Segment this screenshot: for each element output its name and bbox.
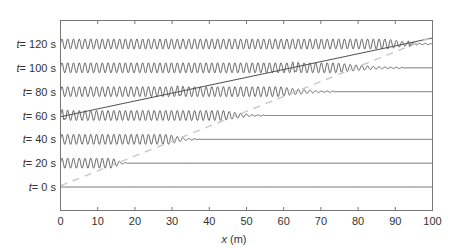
row-label: t= 20 s [23, 157, 57, 169]
wave-traces [61, 39, 433, 187]
x-tick-label: 90 [389, 215, 401, 227]
wave-trace [61, 86, 433, 97]
row-labels: t= 0 st= 20 st= 40 st= 60 st= 80 st= 100… [17, 38, 57, 193]
row-label: t= 100 s [17, 62, 57, 74]
x-tick-label: 10 [92, 215, 104, 227]
x-tick-label: 0 [57, 215, 63, 227]
wave-trace [61, 39, 433, 49]
row-label: t= 40 s [23, 133, 57, 145]
wave-trace [61, 62, 433, 73]
wave-propagation-chart: 0102030405060708090100 t= 0 st= 20 st= 4… [0, 0, 459, 248]
x-axis-ticks: 0102030405060708090100 [57, 21, 441, 227]
x-tick-label: 30 [166, 215, 178, 227]
row-label: t= 120 s [17, 38, 57, 50]
x-tick-label: 80 [352, 215, 364, 227]
x-tick-label: 60 [278, 215, 290, 227]
x-tick-label: 100 [423, 215, 441, 227]
wave-trace [61, 158, 433, 168]
solid-packet-trajectory-line [61, 38, 433, 117]
row-label: t= 60 s [23, 110, 57, 122]
x-tick-label: 50 [240, 215, 252, 227]
x-tick-label: 70 [315, 215, 327, 227]
x-tick-label: 20 [129, 215, 141, 227]
wave-trace [61, 134, 433, 144]
x-axis-title: x (m) [220, 233, 246, 245]
row-label: t= 0 s [29, 181, 57, 193]
row-label: t= 80 s [23, 86, 57, 98]
x-tick-label: 40 [203, 215, 215, 227]
